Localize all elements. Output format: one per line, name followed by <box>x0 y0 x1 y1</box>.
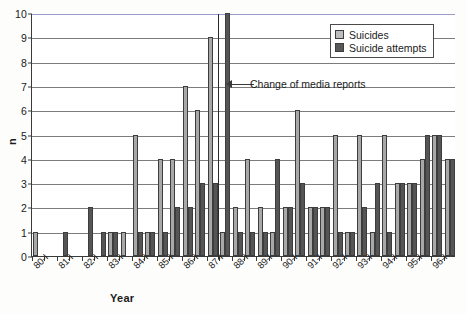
bar-suicide-attempts <box>375 183 380 256</box>
bar-suicide-attempts <box>350 232 355 256</box>
bar-group <box>107 14 119 256</box>
bar-group <box>269 14 281 256</box>
bar-group <box>444 14 456 256</box>
bar-suicide-attempts <box>88 207 93 256</box>
figure-caption <box>6 306 461 314</box>
bar-suicide-attempts <box>250 232 255 256</box>
bar-suicide-attempts <box>275 159 280 256</box>
bar-group <box>32 14 44 256</box>
annotation-label: Change of media reports <box>250 78 366 90</box>
bar-suicides <box>33 232 38 256</box>
bar-group <box>306 14 318 256</box>
bar-group <box>69 14 81 256</box>
bar-suicide-attempts <box>175 207 180 256</box>
bar-group <box>256 14 268 256</box>
y-tick-label: 2 <box>21 202 27 214</box>
y-tick-label: 9 <box>21 32 27 44</box>
bar-group <box>44 14 56 256</box>
y-tick-label: 5 <box>21 130 27 142</box>
bar-group <box>232 14 244 256</box>
bar-suicide-attempts <box>325 207 330 256</box>
bar-group <box>219 14 231 256</box>
y-tick-label: 3 <box>21 178 27 190</box>
y-tick-label: 8 <box>21 57 27 69</box>
event-marker-line <box>218 14 219 259</box>
y-tick-label: 10 <box>15 8 27 20</box>
bar-suicide-attempts <box>425 135 430 257</box>
bar-group <box>281 14 293 256</box>
legend-swatch-suicides-icon <box>335 30 344 39</box>
bar-suicide-attempts <box>300 183 305 256</box>
legend-item-suicide-attempts: Suicide attempts <box>335 41 427 54</box>
legend-label-suicides: Suicides <box>349 29 389 41</box>
bar-group <box>294 14 306 256</box>
y-tick-label: 7 <box>21 81 27 93</box>
bar-suicide-attempts <box>362 207 367 256</box>
x-axis-label: Year <box>110 292 134 304</box>
bar-suicide-attempts <box>288 207 293 256</box>
bar-suicide-attempts <box>313 207 318 256</box>
bar-suicide-attempts <box>412 183 417 256</box>
legend-label-suicide-attempts: Suicide attempts <box>349 42 427 54</box>
bar-suicide-attempts <box>225 13 230 256</box>
y-tick-label: 6 <box>21 105 27 117</box>
bar-group <box>157 14 169 256</box>
bar-suicide-attempts <box>150 232 155 256</box>
y-tick-label: 1 <box>21 227 27 239</box>
bar-group <box>82 14 94 256</box>
bar-suicide-attempts <box>188 207 193 256</box>
bar-group <box>57 14 69 256</box>
bar-suicides <box>121 232 126 256</box>
legend-swatch-suicide-attempts-icon <box>335 43 344 52</box>
bar-suicide-attempts <box>200 183 205 256</box>
bar-group <box>144 14 156 256</box>
legend-item-suicides: Suicides <box>335 28 427 41</box>
bar-group <box>94 14 106 256</box>
bar-group <box>182 14 194 256</box>
y-tick-label: 4 <box>21 154 27 166</box>
bar-group <box>244 14 256 256</box>
chart-figure: n 012345678910 80-I81-I82-I83-I84-I85-I8… <box>0 0 467 314</box>
bar-suicide-attempts <box>213 183 218 256</box>
bar-suicide-attempts <box>450 159 455 256</box>
bar-group <box>119 14 131 256</box>
bar-suicide-attempts <box>437 135 442 257</box>
bar-group <box>132 14 144 256</box>
bar-suicide-attempts <box>101 232 106 256</box>
bar-group <box>194 14 206 256</box>
y-tick-label: 0 <box>21 251 27 263</box>
bar-suicide-attempts <box>400 183 405 256</box>
y-axis-label: n <box>6 138 18 145</box>
legend: Suicides Suicide attempts <box>330 24 434 58</box>
bar-group <box>169 14 181 256</box>
